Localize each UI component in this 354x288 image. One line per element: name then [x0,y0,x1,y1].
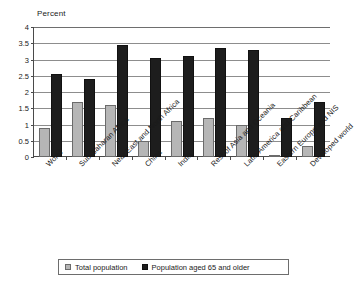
legend-swatch-population-65-and-older [142,264,148,270]
bar [183,56,194,157]
y-axis-tick-label: 2 [25,88,29,97]
bar [215,48,226,157]
bar [117,45,128,157]
legend-item-population-65-and-older: Population aged 65 and older [142,263,250,272]
bar-group [198,27,231,157]
bar [150,58,161,157]
x-axis-category-labels: WorldSub-Saharan AfricaNear East and Nor… [0,160,345,238]
chart-legend: Total population Population aged 65 and … [58,259,289,275]
bar [51,74,62,157]
y-axis-tick-label: 1 [25,120,29,129]
y-axis-tick-label: 3 [25,55,29,64]
legend-label-total-population: Total population [75,263,128,272]
y-axis-tick-label: 3.5 [19,39,29,48]
legend-label-population-65-and-older: Population aged 65 and older [152,263,250,272]
bar-group [67,27,100,157]
bar [248,50,259,157]
y-axis-tick-label: 1.5 [19,104,29,113]
y-axis-tick-label: 0.5 [19,136,29,145]
bar [171,121,182,157]
bar [203,118,214,157]
bar-group [34,27,67,157]
bar [302,146,313,157]
y-axis-tick-label: 2.5 [19,71,29,80]
legend-item-total-population: Total population [65,263,128,272]
bar-group [166,27,199,157]
y-axis-tick-label: 4 [25,23,29,32]
bars-layer [34,27,330,157]
legend-swatch-total-population [65,264,71,270]
y-axis-tick-labels: 00.511.522.533.54 [0,27,29,157]
bar [72,102,83,157]
bar [39,128,50,157]
y-axis-title: Percent [37,9,66,18]
